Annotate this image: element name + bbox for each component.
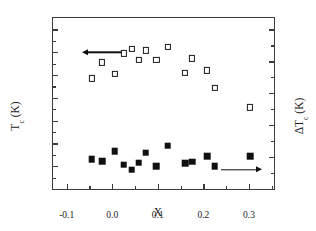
y-axis-right-minor-tick	[271, 77, 274, 78]
data-point-tc	[142, 47, 148, 53]
data-point-delta-tc	[99, 158, 106, 165]
data-point-delta-tc	[165, 142, 172, 149]
y-axis-right-title-sub: c	[302, 116, 311, 119]
y-axis-right-tick	[269, 61, 274, 62]
data-point-delta-tc	[88, 156, 95, 163]
y-axis-right-minor-tick	[271, 109, 274, 110]
y-axis-left-title: Tc (K)	[10, 101, 24, 130]
chart-figure: Tc (K) ΔTc (K) X 80828486889092940246810…	[0, 0, 316, 231]
y-axis-left-tick	[53, 189, 58, 190]
data-point-delta-tc	[204, 153, 211, 160]
data-point-tc	[129, 46, 135, 52]
data-point-delta-tc	[111, 148, 118, 155]
data-point-delta-tc	[135, 160, 142, 167]
y-axis-right-minor-tick	[271, 141, 274, 142]
y-axis-right-tick	[269, 125, 274, 126]
y-axis-left-tick	[53, 52, 58, 53]
x-axis-minor-tick	[135, 186, 136, 189]
y-axis-left-minor-tick	[53, 41, 56, 42]
data-point-tc	[136, 57, 142, 63]
data-point-delta-tc	[142, 149, 149, 156]
y-axis-left-minor-tick	[53, 132, 56, 133]
y-axis-left-tick	[53, 98, 58, 99]
y-axis-left-tick	[53, 75, 58, 76]
y-axis-right-tick	[269, 189, 274, 190]
y-axis-left-minor-tick	[53, 86, 56, 87]
x-axis-minor-tick	[89, 186, 90, 189]
x-axis-tick	[203, 184, 204, 189]
y-axis-left-title-sub: c	[16, 120, 25, 123]
data-point-tc	[189, 55, 195, 61]
data-point-tc	[153, 57, 159, 63]
x-axis-tick	[158, 184, 159, 189]
y-axis-left-title-unit: (K)	[9, 101, 21, 120]
data-point-delta-tc	[120, 161, 127, 168]
data-point-tc	[111, 71, 117, 77]
y-axis-right-title: ΔTc (K)	[295, 97, 309, 134]
x-axis-minor-tick	[226, 186, 227, 189]
data-point-delta-tc	[153, 163, 160, 170]
data-point-tc	[89, 75, 95, 81]
y-axis-left-minor-tick	[53, 109, 56, 110]
plot-area: 80828486889092940246810-0.10.00.10.20.3	[52, 17, 275, 190]
x-axis-tick-label: 0.3	[243, 211, 255, 221]
data-point-delta-tc	[247, 153, 254, 160]
y-axis-left-tick	[53, 121, 58, 122]
data-point-delta-tc	[189, 158, 196, 165]
annotation-arrow-right	[221, 169, 257, 170]
annotation-arrow-left	[87, 51, 121, 52]
y-axis-left-tick	[53, 143, 58, 144]
y-axis-right-tick	[269, 157, 274, 158]
x-axis-tick	[67, 184, 68, 189]
x-axis-tick-label: 0.0	[106, 211, 118, 221]
x-axis-minor-tick	[181, 186, 182, 189]
x-axis-tick	[249, 184, 250, 189]
data-point-tc	[212, 85, 218, 91]
data-point-delta-tc	[182, 160, 189, 167]
arrow-head-left-icon	[82, 49, 88, 55]
y-axis-right-title-main: ΔT	[294, 119, 306, 133]
data-point-tc	[99, 59, 105, 65]
data-point-tc	[247, 104, 253, 110]
x-axis-minor-tick	[272, 186, 273, 189]
data-point-tc	[165, 44, 171, 50]
y-axis-left-tick	[53, 166, 58, 167]
x-axis-tick-label: -0.1	[59, 211, 74, 221]
y-axis-right-tick	[269, 93, 274, 94]
y-axis-left-minor-tick	[53, 64, 56, 65]
y-axis-right-tick	[269, 29, 274, 30]
y-axis-left-tick	[53, 29, 58, 30]
data-point-tc	[182, 70, 188, 76]
data-point-delta-tc	[211, 163, 218, 170]
x-axis-tick-label: 0.2	[197, 211, 209, 221]
x-axis-tick	[112, 184, 113, 189]
y-axis-left-minor-tick	[53, 178, 56, 179]
y-axis-right-minor-tick	[271, 45, 274, 46]
y-axis-right-minor-tick	[271, 173, 274, 174]
x-axis-tick-label: 0.1	[152, 211, 164, 221]
y-axis-right-title-unit: (K)	[294, 97, 306, 116]
data-point-tc	[204, 67, 210, 73]
data-point-tc	[121, 50, 127, 56]
data-point-delta-tc	[129, 166, 136, 173]
arrow-head-right-icon	[256, 167, 262, 173]
y-axis-left-title-main: T	[9, 123, 21, 130]
y-axis-left-minor-tick	[53, 155, 56, 156]
